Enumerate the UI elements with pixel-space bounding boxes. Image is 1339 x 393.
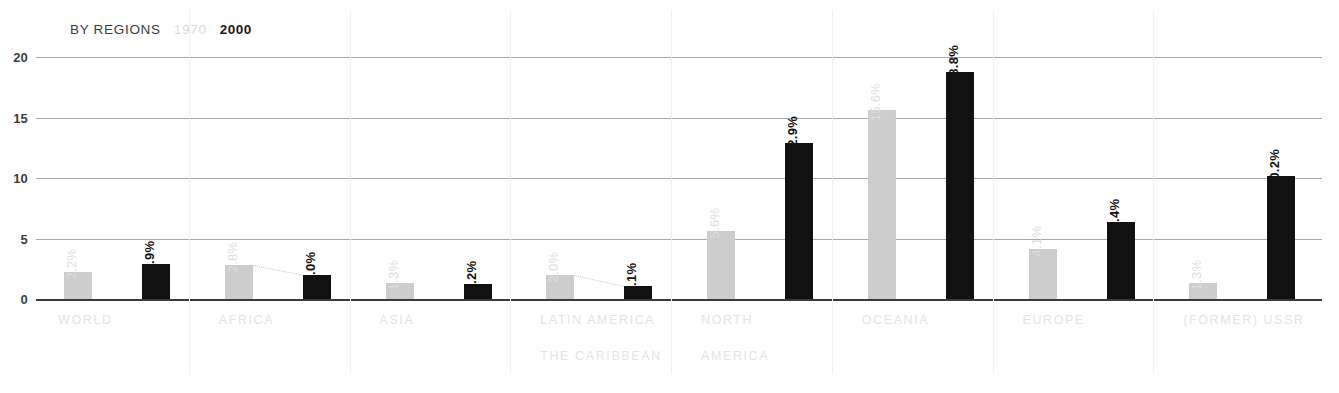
category-label-line1: ASIA bbox=[380, 313, 415, 327]
bar-world-2000: 2.9% bbox=[142, 264, 170, 299]
category-label-line1: AFRICA bbox=[219, 313, 274, 327]
category-label-line1: WORLD bbox=[58, 313, 113, 327]
bar-former-ussr-2000: 10.2% bbox=[1267, 176, 1295, 299]
category-label-line1: LATIN AMERICA bbox=[540, 313, 655, 327]
category-label-europe: EUROPE bbox=[1023, 313, 1085, 327]
bar-value-label: 2.0% bbox=[304, 251, 317, 282]
gridline-0 bbox=[36, 299, 1322, 301]
category-label-line1: NORTH bbox=[701, 313, 753, 327]
legend-series-2000: 2000 bbox=[220, 22, 252, 37]
bar-value-label: 2.0% bbox=[547, 251, 560, 282]
category-label-latin-america: LATIN AMERICATHE CARIBBEAN bbox=[540, 313, 662, 363]
gridline-20 bbox=[36, 57, 1322, 58]
category-label-north: NORTHAMERICA bbox=[701, 313, 769, 363]
category-label-asia: ASIA bbox=[380, 313, 415, 327]
category-label-former-ussr: (FORMER) USSR bbox=[1183, 313, 1305, 327]
bar-former-ussr-1970: 1.3% bbox=[1189, 283, 1217, 299]
category-label-line2: THE CARIBBEAN bbox=[540, 349, 662, 363]
bar-value-label: 10.2% bbox=[1268, 148, 1281, 186]
bar-value-label: 6.4% bbox=[1108, 198, 1121, 229]
bar-value-label: 4.1% bbox=[1030, 226, 1043, 257]
category-label-africa: AFRICA bbox=[219, 313, 274, 327]
category-label-line1: OCEANIA bbox=[862, 313, 929, 327]
bar-value-label: 12.9% bbox=[786, 116, 799, 154]
bar-world-1970: 2.2% bbox=[64, 272, 92, 299]
category-label-line1: EUROPE bbox=[1023, 313, 1085, 327]
category-labels: WORLDAFRICAASIALATIN AMERICATHE CARIBBEA… bbox=[36, 313, 1322, 383]
category-label-oceania: OCEANIA bbox=[862, 313, 929, 327]
bar-asia-1970: 1.3% bbox=[386, 283, 414, 299]
bar-africa-2000: 2.0% bbox=[303, 275, 331, 299]
bar-north-america-1970: 5.6% bbox=[707, 231, 735, 299]
regions-bar-chart: 20151050 2.2%2.9%2.8%2.0%1.3%1.2%2.0%1.1… bbox=[0, 0, 1339, 393]
bar-value-label: 1.3% bbox=[1190, 260, 1203, 291]
category-label-line1: (FORMER) USSR bbox=[1183, 313, 1305, 327]
bar-value-label: 1.1% bbox=[625, 262, 638, 293]
category-label-world: WORLD bbox=[58, 313, 113, 327]
bar-europe-1970: 4.1% bbox=[1029, 249, 1057, 299]
bar-latin-america-the-caribbean-2000: 1.1% bbox=[624, 286, 652, 299]
gridline-15 bbox=[36, 118, 1322, 119]
legend-title: BY REGIONS bbox=[70, 22, 161, 37]
y-axis-tick-0: 0 bbox=[0, 292, 28, 307]
bar-africa-1970: 2.8% bbox=[225, 265, 253, 299]
bar-value-label: 1.3% bbox=[387, 260, 400, 291]
bar-value-label: 2.8% bbox=[226, 242, 239, 273]
bar-value-label: 18.8% bbox=[947, 44, 960, 82]
bar-value-label: 5.6% bbox=[708, 208, 721, 239]
bar-value-label: 2.2% bbox=[65, 249, 78, 280]
y-axis-tick-20: 20 bbox=[0, 50, 28, 65]
y-axis-tick-10: 10 bbox=[0, 171, 28, 186]
chart-legend: BY REGIONS 1970 2000 bbox=[70, 22, 252, 37]
legend-series-1970: 1970 bbox=[174, 22, 207, 37]
bar-north-america-2000: 12.9% bbox=[785, 143, 813, 299]
y-axis-tick-5: 5 bbox=[0, 231, 28, 246]
bar-oceania-1970: 15.6% bbox=[868, 110, 896, 299]
trend-connector-africa bbox=[253, 265, 303, 277]
trend-connector-latin-america-the-caribbean bbox=[574, 275, 624, 288]
bar-latin-america-the-caribbean-1970: 2.0% bbox=[546, 275, 574, 299]
bar-value-label: 2.9% bbox=[143, 241, 156, 272]
bar-value-label: 15.6% bbox=[869, 83, 882, 121]
category-label-line2: AMERICA bbox=[701, 349, 769, 363]
plot-area: 20151050 2.2%2.9%2.8%2.0%1.3%1.2%2.0%1.1… bbox=[36, 10, 1322, 301]
y-axis-tick-15: 15 bbox=[0, 110, 28, 125]
bar-asia-2000: 1.2% bbox=[464, 284, 492, 299]
gridline-10 bbox=[36, 178, 1322, 179]
bar-value-label: 1.2% bbox=[465, 261, 478, 292]
bar-europe-2000: 6.4% bbox=[1107, 222, 1135, 299]
bar-oceania-2000: 18.8% bbox=[946, 72, 974, 299]
